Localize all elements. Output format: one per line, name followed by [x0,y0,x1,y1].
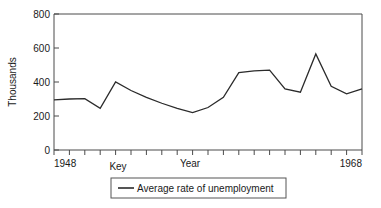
y-axis-tick-labels: 800 600 400 200 0 [33,9,50,156]
axis-frame [54,14,362,150]
y-tick-label-200: 200 [33,111,50,122]
y-tick-label-800: 800 [33,9,50,20]
y-tick-label-0: 0 [44,145,50,156]
x-axis-title: Year [180,158,201,169]
legend-label: Average rate of unemployment [137,183,274,194]
chart-svg: 800 600 400 200 0 Thousands [0,0,381,208]
y-tick-label-600: 600 [33,43,50,54]
y-axis-ticks [54,14,59,150]
x-tick-label-end: 1968 [340,158,363,169]
x-axis-ticks [54,150,362,155]
series-line-average-rate-of-unemployment [54,54,362,113]
unemployment-line-chart: 800 600 400 200 0 Thousands [0,0,381,208]
x-tick-label-start: 1948 [54,158,77,169]
y-axis-title: Thousands [7,57,18,106]
legend: Average rate of unemployment [111,178,286,198]
key-label: Key [109,161,126,172]
y-tick-label-400: 400 [33,77,50,88]
plot-frame [54,14,362,150]
